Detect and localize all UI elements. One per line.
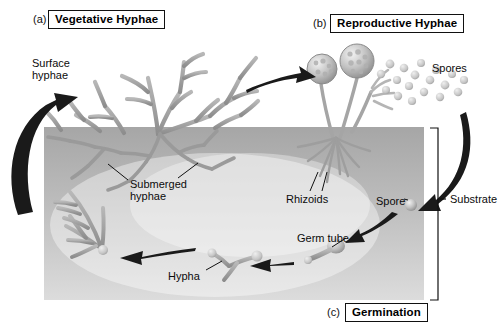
arrow-vegetative-to-reproductive bbox=[246, 66, 316, 93]
label-rhizoids: Rhizoids bbox=[286, 193, 328, 205]
vegetative-hyphae-surface bbox=[46, 54, 258, 134]
substrate-bracket bbox=[430, 128, 446, 300]
label-substrate: Substrate bbox=[450, 193, 497, 205]
hypha-chain-base bbox=[208, 249, 217, 258]
panel-c-tag: (c) bbox=[327, 306, 340, 318]
landed-spore bbox=[405, 199, 417, 211]
panel-c-title: Germination bbox=[345, 303, 428, 322]
panel-a-title: Vegetative Hyphae bbox=[48, 10, 165, 29]
label-surface-hyphae: Surface hyphae bbox=[32, 57, 70, 81]
figure-canvas: (a) Vegetative Hyphae (b) Reproductive H… bbox=[0, 0, 502, 331]
panel-a-tag: (a) bbox=[33, 13, 46, 25]
hypha-tip-left bbox=[98, 245, 108, 255]
label-spore: Spore bbox=[376, 195, 405, 207]
diagram-artwork bbox=[0, 0, 502, 331]
sporangium-left bbox=[307, 54, 337, 84]
label-spores: Spores bbox=[432, 62, 467, 74]
label-submerged-hyphae: Submerged hyphae bbox=[130, 178, 187, 202]
panel-b-title: Reproductive Hyphae bbox=[330, 14, 464, 33]
hypha-chain-tip bbox=[252, 251, 263, 262]
label-germ-tube: Germ tube bbox=[297, 232, 349, 244]
panel-b-tag: (b) bbox=[313, 17, 326, 29]
label-hypha: Hypha bbox=[168, 270, 200, 282]
